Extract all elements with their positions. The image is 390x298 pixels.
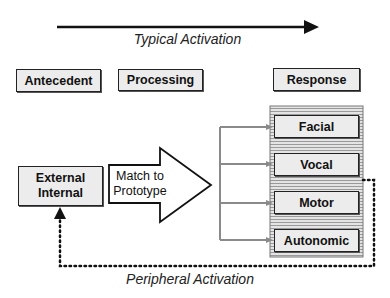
external-internal-box: External Internal [18, 166, 103, 206]
stage-header-antecedent: Antecedent [16, 69, 101, 92]
match-to-label: Match to [116, 169, 164, 184]
response-motor: Motor [274, 191, 359, 214]
typical-activation-label: Typical Activation [120, 30, 255, 48]
internal-label: Internal [38, 186, 83, 201]
response-facial: Facial [274, 115, 359, 138]
peripheral-activation-label: Peripheral Activation [115, 270, 265, 288]
response-autonomic: Autonomic [274, 229, 359, 252]
peripheral-arrowhead-icon [54, 207, 66, 219]
response-vocal: Vocal [274, 153, 359, 176]
branch-connectors [220, 127, 268, 240]
match-to-prototype-label: Match to Prototype [109, 167, 171, 201]
stage-header-processing: Processing [118, 69, 203, 91]
external-label: External [36, 171, 85, 186]
stage-header-response: Response [273, 68, 360, 91]
prototype-label: Prototype [113, 184, 167, 199]
